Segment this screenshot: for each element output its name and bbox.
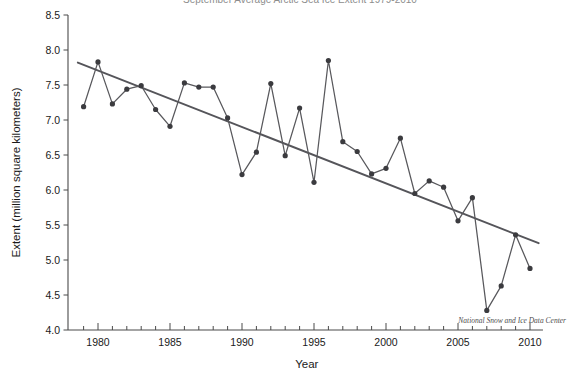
- data-point-marker: [167, 124, 172, 129]
- x-axis-tick-label: 2005: [446, 336, 470, 348]
- credit-layer: National Snow and Ice Data Center: [457, 316, 566, 325]
- data-point-marker: [484, 308, 489, 313]
- x-axis-tick-label: 1985: [158, 336, 182, 348]
- sea-ice-extent-line-chart: September Average Arctic Sea Ice Extent …: [0, 0, 571, 378]
- data-point-marker: [110, 101, 115, 106]
- x-axis-tick-label: 2000: [374, 336, 398, 348]
- data-point-marker: [427, 178, 432, 183]
- axes-layer: [64, 15, 543, 330]
- data-point-marker: [383, 166, 388, 171]
- y-axis-tick-label: 5.5: [45, 219, 60, 231]
- data-point-marker: [196, 85, 201, 90]
- data-point-marker: [455, 218, 460, 223]
- y-axis-tick-label: 5.0: [45, 254, 60, 266]
- data-point-marker: [297, 106, 302, 111]
- data-point-marker: [124, 87, 129, 92]
- data-point-marker: [81, 104, 86, 109]
- data-point-marker: [239, 172, 244, 177]
- y-axis-title: Extent (million square kilometers): [10, 87, 22, 257]
- x-axis-tick-label: 2010: [518, 336, 542, 348]
- tick-labels-layer: 4.04.55.05.56.06.57.07.58.08.51980198519…: [45, 9, 541, 348]
- y-axis-tick-label: 4.0: [45, 324, 60, 336]
- data-point-marker: [326, 58, 331, 63]
- chart-container: September Average Arctic Sea Ice Extent …: [0, 0, 571, 378]
- data-series-layer: [84, 61, 530, 311]
- data-point-marker: [355, 149, 360, 154]
- y-axis-tick-label: 7.0: [45, 114, 60, 126]
- y-axis-tick-label: 7.5: [45, 79, 60, 91]
- data-point-marker: [153, 107, 158, 112]
- data-point-marker: [527, 266, 532, 271]
- data-point-marker: [139, 83, 144, 88]
- data-point-marker: [95, 59, 100, 64]
- y-axis-tick-label: 8.5: [45, 9, 60, 21]
- x-axis-tick-label: 1980: [86, 336, 110, 348]
- data-markers-layer: [81, 58, 533, 313]
- data-point-marker: [398, 136, 403, 141]
- data-point-marker: [311, 180, 316, 185]
- y-axis-tick-label: 6.5: [45, 149, 60, 161]
- x-axis-tick-label: 1990: [230, 336, 254, 348]
- chart-title: September Average Arctic Sea Ice Extent …: [183, 0, 417, 5]
- data-point-marker: [340, 139, 345, 144]
- data-point-marker: [211, 85, 216, 90]
- data-point-marker: [513, 232, 518, 237]
- data-point-marker: [369, 171, 374, 176]
- data-point-marker: [268, 81, 273, 86]
- y-axis-tick-label: 6.0: [45, 184, 60, 196]
- data-point-marker: [254, 150, 259, 155]
- chart-title-layer: September Average Arctic Sea Ice Extent …: [183, 0, 417, 5]
- data-point-marker: [182, 80, 187, 85]
- data-source-credit: National Snow and Ice Data Center: [457, 316, 566, 325]
- y-axis-tick-label: 8.0: [45, 44, 60, 56]
- data-point-marker: [225, 115, 230, 120]
- y-axis-tick-label: 4.5: [45, 289, 60, 301]
- data-point-marker: [283, 153, 288, 158]
- series-line-september-extent: [84, 61, 530, 311]
- x-axis-tick-label: 1995: [302, 336, 326, 348]
- data-point-marker: [441, 185, 446, 190]
- data-point-marker: [412, 191, 417, 196]
- x-axis-title: Year: [295, 358, 318, 370]
- data-point-marker: [499, 283, 504, 288]
- data-point-marker: [470, 195, 475, 200]
